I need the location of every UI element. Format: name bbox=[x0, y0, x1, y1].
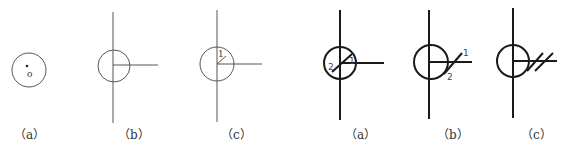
figure-label: （c） bbox=[221, 128, 252, 142]
circle bbox=[98, 50, 130, 82]
figure-label: （a） bbox=[14, 128, 45, 142]
marker-1: 1 bbox=[463, 48, 469, 58]
right-figure-c: （c） bbox=[497, 8, 557, 142]
right-figure-b: 1 2 （b） bbox=[414, 10, 472, 142]
left-figure-b: （b） bbox=[98, 12, 158, 142]
marker-2: 2 bbox=[328, 62, 334, 72]
right-figure-a: 2 1 （a） bbox=[324, 10, 384, 142]
figure-label: （a） bbox=[345, 128, 376, 142]
left-figure-c: 1 （c） bbox=[200, 10, 262, 142]
marker-1: 1 bbox=[349, 56, 355, 66]
point-label-o: o bbox=[27, 69, 32, 79]
diagram-canvas: o （a） （b） 1 （c） 2 1 （a） 1 2 （b） bbox=[0, 0, 567, 151]
figure-label: （c） bbox=[521, 128, 552, 142]
figure-label: （b） bbox=[118, 128, 150, 142]
figure-label: （b） bbox=[437, 128, 469, 142]
marker-2: 2 bbox=[447, 72, 453, 82]
center-dot bbox=[26, 65, 29, 68]
left-figure-a: o （a） bbox=[12, 53, 46, 142]
marker-1: 1 bbox=[218, 49, 224, 59]
